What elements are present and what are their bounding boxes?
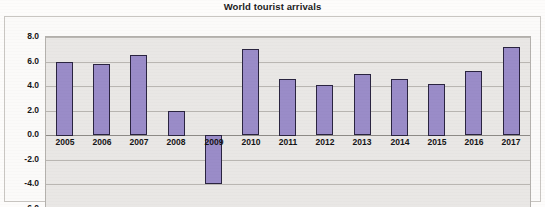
bar-2015 [428, 84, 445, 136]
plot-area: 2005200620072008200920102011201220132014… [45, 36, 531, 207]
x-axis-tick-label: 2005 [56, 137, 75, 147]
gridline [46, 62, 530, 63]
x-axis-tick-label: 2006 [93, 137, 112, 147]
y-axis-tick-label: 2.0 [27, 105, 39, 115]
x-axis-tick-label: 2017 [502, 137, 521, 147]
bar-2008 [168, 111, 185, 136]
chart-frame: 8.06.04.02.00.0-2.0-4.0-6.0 200520062007… [4, 16, 541, 202]
y-axis-tick-label: 0.0 [27, 129, 39, 139]
gridline [46, 160, 530, 161]
bar-2014 [391, 79, 408, 136]
bar-2013 [354, 74, 371, 135]
bar-2005 [56, 62, 73, 136]
y-axis-tick-label: 6.0 [27, 56, 39, 66]
chart-container: World tourist arrivals 8.06.04.02.00.0-2… [0, 0, 545, 207]
y-axis-tick-label: -2.0 [24, 154, 39, 164]
bar-2016 [465, 71, 482, 135]
y-axis-tick-label: 4.0 [27, 80, 39, 90]
bar-2011 [279, 79, 296, 136]
y-axis-tick-label: 8.0 [27, 31, 39, 41]
y-axis: 8.06.04.02.00.0-2.0-4.0-6.0 [5, 36, 41, 207]
x-axis-tick-label: 2007 [130, 137, 149, 147]
x-axis-tick-label: 2013 [353, 137, 372, 147]
x-axis-tick-label: 2008 [167, 137, 186, 147]
gridline [46, 184, 530, 185]
y-axis-tick-label: -4.0 [24, 178, 39, 188]
chart-title: World tourist arrivals [0, 1, 545, 12]
bar-2010 [242, 49, 259, 135]
bar-2009 [205, 135, 222, 184]
x-axis-tick-label: 2016 [465, 137, 484, 147]
gridline [46, 37, 530, 38]
bar-2012 [316, 85, 333, 135]
bar-2007 [130, 55, 147, 135]
bar-2006 [93, 64, 110, 135]
bar-2017 [503, 47, 520, 135]
y-axis-tick-label: -6.0 [24, 203, 39, 207]
x-axis-tick-label: 2011 [279, 137, 297, 147]
x-axis-tick-label: 2015 [428, 137, 447, 147]
x-axis-tick-label: 2012 [316, 137, 335, 147]
x-axis-tick-label: 2014 [391, 137, 410, 147]
x-axis-tick-label: 2010 [242, 137, 261, 147]
